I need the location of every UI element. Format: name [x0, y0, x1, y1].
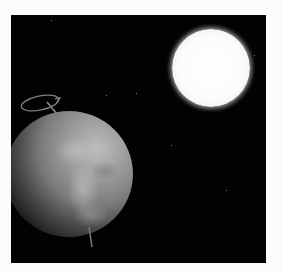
rotation-axis-icon [11, 15, 266, 263]
space-panel [11, 15, 266, 263]
